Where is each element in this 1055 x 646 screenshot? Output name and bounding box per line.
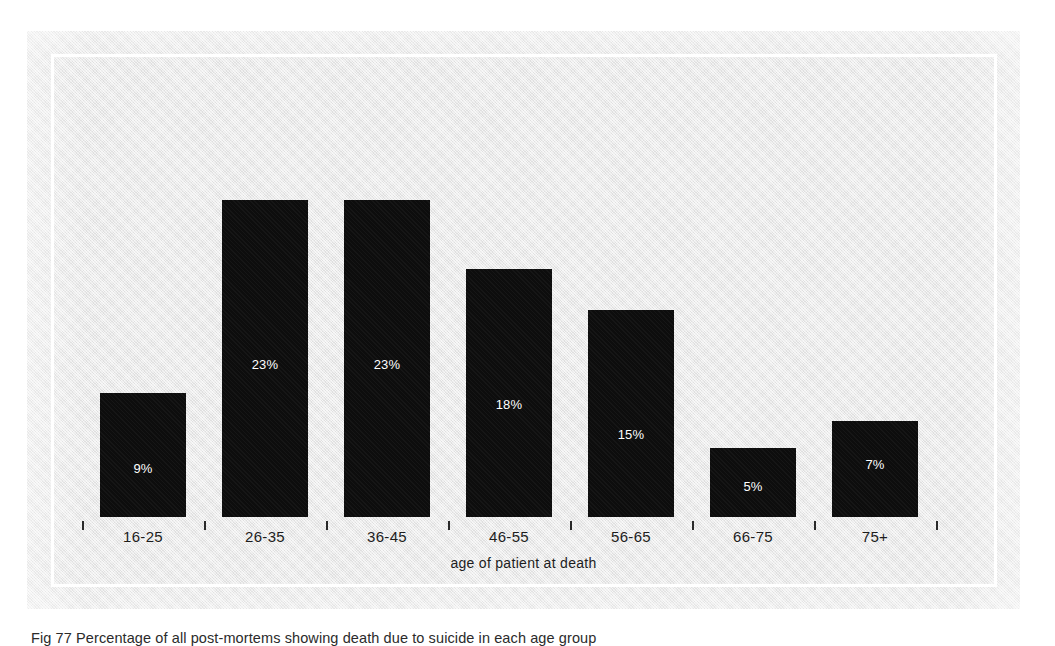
bar-value-label-26-35: 23% xyxy=(222,357,308,372)
bar-value-label-75+: 7% xyxy=(832,457,918,472)
bar-chart-plot-area: age of patient at death 9%16-2523%26-352… xyxy=(27,31,1020,609)
x-axis-tick-7 xyxy=(936,521,938,530)
x-tick-label-16-25: 16-25 xyxy=(82,528,204,545)
x-axis-tick-6 xyxy=(814,521,816,530)
x-tick-label-26-35: 26-35 xyxy=(204,528,326,545)
x-tick-label-56-65: 56-65 xyxy=(570,528,692,545)
figure-panel: age of patient at death 9%16-2523%26-352… xyxy=(27,31,1020,609)
x-tick-label-36-45: 36-45 xyxy=(326,528,448,545)
bar-46-55 xyxy=(466,269,552,517)
x-tick-label-46-55: 46-55 xyxy=(448,528,570,545)
x-axis-tick-1 xyxy=(204,521,206,530)
x-axis-title: age of patient at death xyxy=(27,555,1020,571)
bar-value-label-56-65: 15% xyxy=(588,427,674,442)
bar-value-label-16-25: 9% xyxy=(100,461,186,476)
x-axis-tick-3 xyxy=(448,521,450,530)
bar-16-25 xyxy=(100,393,186,517)
x-axis-tick-5 xyxy=(692,521,694,530)
bar-value-label-36-45: 23% xyxy=(344,357,430,372)
x-tick-label-75+: 75+ xyxy=(814,528,936,545)
bar-56-65 xyxy=(588,310,674,517)
bar-value-label-46-55: 18% xyxy=(466,397,552,412)
x-tick-label-66-75: 66-75 xyxy=(692,528,814,545)
bar-value-label-66-75: 5% xyxy=(710,479,796,494)
x-axis-tick-4 xyxy=(570,521,572,530)
x-axis-tick-2 xyxy=(326,521,328,530)
figure-caption: Fig 77 Percentage of all post-mortems sh… xyxy=(31,629,1031,646)
x-axis-tick-0 xyxy=(82,521,84,530)
